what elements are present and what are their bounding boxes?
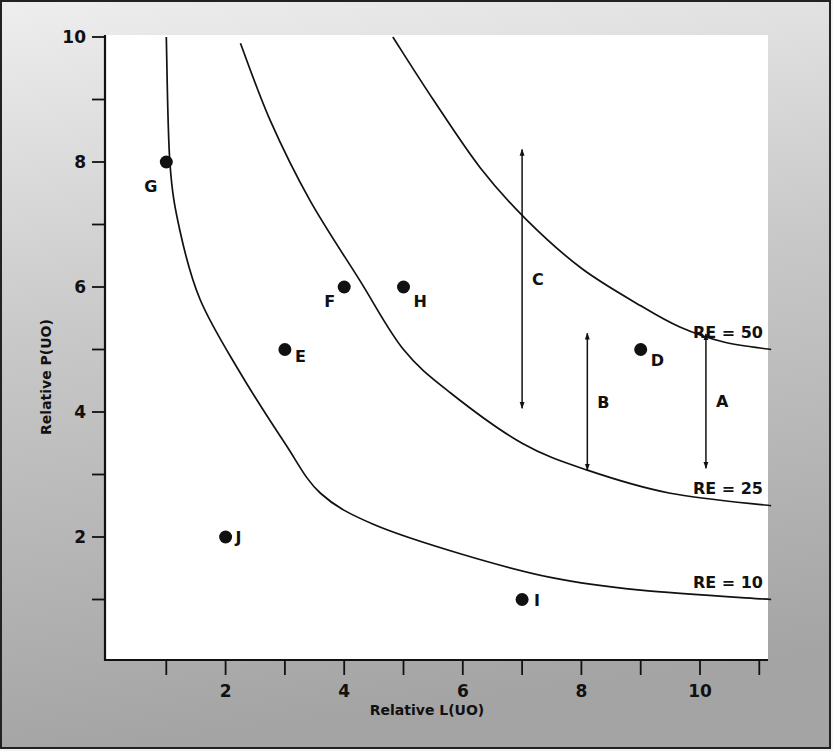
point-label: F <box>324 292 335 311</box>
point-label: J <box>235 528 242 547</box>
x-tick-label: 2 <box>220 681 232 701</box>
curve-label: RE = 50 <box>693 323 763 342</box>
plot-area <box>105 35 768 660</box>
x-tick-label: 10 <box>688 681 712 701</box>
y-tick-label: 6 <box>74 277 86 297</box>
arrow-label: A <box>716 392 729 411</box>
data-point-f <box>338 281 351 294</box>
data-point-h <box>397 281 410 294</box>
x-tick-label: 8 <box>575 681 587 701</box>
point-label: H <box>414 292 427 311</box>
y-tick-label: 8 <box>74 152 86 172</box>
arrow-label: B <box>597 393 609 412</box>
x-tick-label: 6 <box>457 681 469 701</box>
curve-label: RE = 10 <box>693 573 763 592</box>
data-point-g <box>160 156 173 169</box>
arrow-label: C <box>532 270 544 289</box>
figure: CBA GEFHDJI 246810246810 RE = 10RE = 25R… <box>0 0 833 751</box>
point-label: D <box>651 351 664 370</box>
y-tick-label: 2 <box>74 527 86 547</box>
data-point-i <box>516 593 529 606</box>
curve-label: RE = 25 <box>693 479 763 498</box>
point-label: E <box>295 347 306 366</box>
y-tick-label: 10 <box>62 27 86 47</box>
point-label: G <box>144 177 157 196</box>
data-point-d <box>634 343 647 356</box>
y-tick-label: 4 <box>74 402 86 422</box>
chart-svg: CBA GEFHDJI 246810246810 RE = 10RE = 25R… <box>0 0 833 751</box>
x-axis-label: Relative L(UO) <box>370 702 485 718</box>
x-tick-label: 4 <box>338 681 350 701</box>
data-point-j <box>219 531 232 544</box>
point-label: I <box>534 591 540 610</box>
data-point-e <box>278 343 291 356</box>
y-axis-label: Relative P(UO) <box>38 319 54 435</box>
